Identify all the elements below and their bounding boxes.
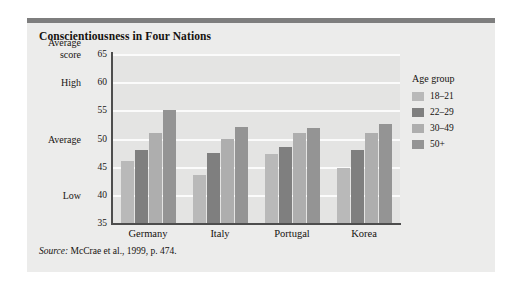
source-keyword: Source: xyxy=(39,246,68,256)
y-axis-tick-label: 45 xyxy=(85,162,107,172)
legend-label: 22–29 xyxy=(430,107,454,117)
legend: Age group 18–2122–2930–4950+ xyxy=(412,73,492,155)
legend-rows: 18–2122–2930–4950+ xyxy=(412,91,492,149)
category-label: Italy xyxy=(184,228,256,239)
y-axis-tick-label: 60 xyxy=(85,77,107,87)
bar-group xyxy=(256,54,328,223)
y-axis-tick-label: 65 xyxy=(85,49,107,59)
x-axis-line xyxy=(111,223,401,225)
legend-item: 50+ xyxy=(412,139,492,149)
bar xyxy=(121,161,134,223)
source-note: Source: McCrae et al., 1999, p. 474. xyxy=(39,246,177,256)
legend-swatch xyxy=(412,108,424,117)
bar xyxy=(337,168,350,223)
y-axis-anchor-label: High xyxy=(61,77,81,88)
y-axis-tick-labels: 35404550556065 xyxy=(83,18,107,272)
legend-label: 50+ xyxy=(430,139,445,149)
legend-label: 18–21 xyxy=(430,91,454,101)
category-label: Portugal xyxy=(256,228,328,239)
bar xyxy=(293,133,306,223)
y-axis-tick-label: 55 xyxy=(85,105,107,115)
bar xyxy=(351,150,364,223)
y-axis-tick-label: 35 xyxy=(85,218,107,228)
bar xyxy=(279,147,292,223)
bar xyxy=(379,124,392,223)
legend-swatch xyxy=(412,92,424,101)
legend-label: 30–49 xyxy=(430,123,454,133)
y-axis-tick-label: 50 xyxy=(85,134,107,144)
legend-title: Age group xyxy=(412,73,492,84)
y-axis-anchor-label: Low xyxy=(63,189,81,200)
legend-swatch xyxy=(412,124,424,133)
legend-item: 18–21 xyxy=(412,91,492,101)
bar-group xyxy=(112,54,184,223)
bar xyxy=(365,133,378,223)
bar-group xyxy=(184,54,256,223)
bar xyxy=(207,153,220,223)
category-label: Korea xyxy=(328,228,400,239)
legend-item: 22–29 xyxy=(412,107,492,117)
figure-panel: Conscientiousness in Four Nations 354045… xyxy=(27,18,495,272)
y-axis-anchor-labels: Average score HighAverageLow xyxy=(27,18,81,272)
bar xyxy=(135,150,148,223)
source-text: McCrae et al., 1999, p. 474. xyxy=(68,246,176,256)
bar-group xyxy=(328,54,400,223)
bar xyxy=(307,128,320,223)
legend-item: 30–49 xyxy=(412,123,492,133)
category-label: Germany xyxy=(112,228,184,239)
bar xyxy=(265,154,278,223)
bar xyxy=(221,139,234,224)
bar xyxy=(149,133,162,223)
bar xyxy=(163,110,176,223)
bar xyxy=(235,127,248,223)
bar xyxy=(193,175,206,223)
legend-swatch xyxy=(412,140,424,149)
y-axis-anchor-label: Average xyxy=(48,133,81,144)
y-axis-tick-label: 40 xyxy=(85,190,107,200)
y-axis-title-line1: Average xyxy=(48,37,81,48)
y-axis-title-line2: score xyxy=(27,49,81,60)
